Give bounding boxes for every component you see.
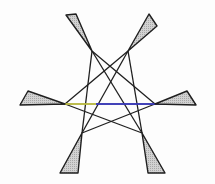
blade-bottom-right bbox=[142, 133, 165, 173]
star-linkage-diagram bbox=[0, 0, 215, 184]
connector-line-l1 bbox=[82, 51, 92, 133]
diagram-canvas bbox=[0, 0, 215, 184]
blade-top-left bbox=[66, 14, 92, 51]
connector-line-l5 bbox=[65, 104, 142, 133]
blade-bottom-left bbox=[60, 133, 82, 173]
connector-line-l6 bbox=[82, 104, 155, 133]
blade-right bbox=[155, 91, 196, 105]
connecting-lines bbox=[65, 51, 155, 133]
triangular-blades bbox=[20, 14, 196, 173]
connector-line-l7 bbox=[82, 51, 128, 133]
blade-top-right bbox=[128, 14, 157, 51]
blade-left bbox=[20, 91, 65, 105]
